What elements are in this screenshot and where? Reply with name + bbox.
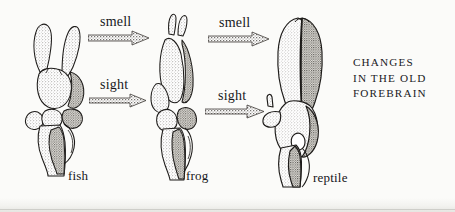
arrow-label-smell-2: smell <box>219 15 250 31</box>
arrow-label-sight-2: sight <box>218 88 246 104</box>
arrow-sight-frog-to-reptile <box>205 104 265 119</box>
arrow-label-smell-1: smell <box>100 14 131 30</box>
forebrain-evolution-figure: fish <box>0 0 455 212</box>
species-label-frog: frog <box>186 168 208 184</box>
species-label-reptile: reptile <box>313 170 348 186</box>
arrow-label-sight-1: sight <box>100 77 128 93</box>
caption-line-2: IN THE OLD <box>353 71 453 87</box>
caption-line-1: CHANGES <box>353 55 453 71</box>
page-edge-line <box>0 209 455 210</box>
arrow-smell-frog-to-reptile <box>208 31 270 47</box>
figure-caption: CHANGES IN THE OLD FOREBRAIN <box>353 55 453 102</box>
species-label-fish: fish <box>68 168 88 184</box>
arrow-sight-fish-to-frog <box>89 93 147 108</box>
brain-illustration-reptile <box>258 8 350 188</box>
caption-line-3: FOREBRAIN <box>353 86 453 102</box>
arrow-smell-fish-to-frog <box>88 30 150 46</box>
page-edge-shadow <box>0 198 455 212</box>
